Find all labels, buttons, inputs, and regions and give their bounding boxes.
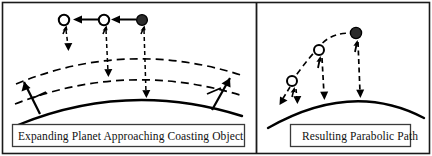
left-caption-label: Expanding Planet Approaching Coasting Ob… [18, 130, 244, 143]
right-caption-label: Resulting Parabolic Path [302, 130, 418, 143]
object-position-3-filled [350, 27, 361, 38]
object-position-1-hollow [59, 15, 69, 25]
object-position-3-filled [137, 15, 148, 26]
physics-diagram-figure: Expanding Planet Approaching Coasting Ob… [0, 0, 432, 156]
object-position-2-hollow [314, 45, 324, 55]
object-position-1-hollow [287, 76, 297, 86]
figure-canvas: Expanding Planet Approaching Coasting Ob… [0, 0, 432, 156]
object-position-2-hollow [99, 15, 109, 25]
